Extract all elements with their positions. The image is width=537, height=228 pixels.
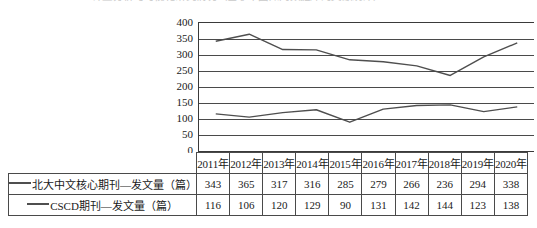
- y-axis-tick-label: 300: [155, 49, 193, 60]
- year-column-header: 2011年: [197, 153, 230, 174]
- data-value-cell: 120: [263, 195, 296, 216]
- data-value-cell: 316: [296, 174, 329, 195]
- y-axis: 400350300250200150100500: [155, 15, 193, 151]
- year-column-header: 2020年: [494, 153, 527, 174]
- legend-line-icon: [9, 182, 31, 184]
- legend-label: 北大中文核心期刊—发文量（篇）: [32, 179, 197, 191]
- y-axis-tick-label: 200: [155, 81, 193, 92]
- data-value-cell: 285: [329, 174, 362, 195]
- y-axis-tick-label: 150: [155, 97, 193, 108]
- data-value-cell: 129: [296, 195, 329, 216]
- data-value-cell: 131: [362, 195, 395, 216]
- table-corner-cell: [9, 153, 197, 174]
- year-column-header: 2013年: [263, 153, 296, 174]
- data-value-cell: 236: [428, 174, 461, 195]
- y-axis-tick-label: 50: [155, 129, 193, 140]
- legend-label: CSCD期刊—发文量（篇）: [50, 200, 178, 212]
- data-value-cell: 90: [329, 195, 362, 216]
- clipped-caption-label: 计量分析与可视化研究情况（基于中国知网数据库的文献统计）: [0, 0, 537, 3]
- year-column-header: 2016年: [362, 153, 395, 174]
- table-row: CSCD期刊—发文量（篇）116106120129901311421441231…: [9, 195, 528, 216]
- gridline: [199, 103, 534, 104]
- plot-area: [198, 22, 534, 152]
- table-header-row: 2011年2012年2013年2014年2015年2016年2017年2018年…: [9, 153, 528, 174]
- y-axis-tick-label: 350: [155, 33, 193, 44]
- y-axis-tick-label: 250: [155, 65, 193, 76]
- y-axis-tick-label: 100: [155, 113, 193, 124]
- clipped-caption-text: 计量分析与可视化研究情况（基于中国知网数据库的文献统计）: [0, 0, 537, 3]
- data-table: 2011年2012年2013年2014年2015年2016年2017年2018年…: [8, 152, 528, 216]
- y-axis-tick-label: 400: [155, 17, 193, 28]
- data-value-cell: 343: [197, 174, 230, 195]
- table-row: 北大中文核心期刊—发文量（篇）3433653173162852792662362…: [9, 174, 528, 195]
- gridline: [199, 55, 534, 56]
- data-value-cell: 138: [494, 195, 527, 216]
- gridline: [199, 119, 534, 120]
- year-column-header: 2017年: [395, 153, 428, 174]
- data-value-cell: 294: [461, 174, 494, 195]
- line-chart: 400350300250200150100500: [0, 15, 537, 155]
- data-value-cell: 144: [428, 195, 461, 216]
- data-value-cell: 338: [494, 174, 527, 195]
- legend-item-2: CSCD期刊—发文量（篇）: [9, 195, 197, 216]
- legend-item-1: 北大中文核心期刊—发文量（篇）: [9, 174, 197, 195]
- gridline: [199, 135, 534, 136]
- gridline: [199, 71, 534, 72]
- chart-figure: 计量分析与可视化研究情况（基于中国知网数据库的文献统计） 40035030025…: [0, 0, 537, 228]
- legend-line-icon: [27, 203, 49, 205]
- year-column-header: 2014年: [296, 153, 329, 174]
- data-value-cell: 116: [197, 195, 230, 216]
- data-value-cell: 317: [263, 174, 296, 195]
- data-value-cell: 365: [230, 174, 263, 195]
- data-value-cell: 279: [362, 174, 395, 195]
- year-column-header: 2015年: [329, 153, 362, 174]
- data-value-cell: 142: [395, 195, 428, 216]
- year-column-header: 2019年: [461, 153, 494, 174]
- gridline: [199, 39, 534, 40]
- year-column-header: 2012年: [230, 153, 263, 174]
- gridline: [199, 87, 534, 88]
- data-value-cell: 123: [461, 195, 494, 216]
- data-value-cell: 266: [395, 174, 428, 195]
- data-value-cell: 106: [230, 195, 263, 216]
- year-column-header: 2018年: [428, 153, 461, 174]
